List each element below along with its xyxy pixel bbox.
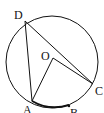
- segment-dc: [25, 21, 93, 84]
- segment-oc: [53, 58, 93, 84]
- circle-o: [6, 16, 98, 108]
- label-c: C: [95, 84, 103, 98]
- segment-oa: [32, 58, 53, 101]
- label-o: O: [41, 49, 50, 63]
- label-a: A: [23, 103, 32, 113]
- segment-da: [25, 21, 32, 101]
- geometry-diagram: D O C A B: [0, 0, 104, 113]
- label-d: D: [14, 8, 23, 22]
- arc-ab: [32, 101, 69, 107]
- label-b: B: [70, 106, 78, 113]
